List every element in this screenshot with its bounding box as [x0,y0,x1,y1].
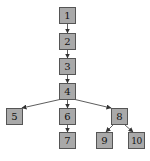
node-5: 5 [6,108,23,125]
node-10: 10 [128,132,145,149]
node-4: 4 [59,83,76,100]
node-1: 1 [59,7,76,24]
node-7: 7 [59,132,76,149]
node-2: 2 [59,33,76,50]
node-3: 3 [59,58,76,75]
edge-8-9 [106,125,113,132]
node-8: 8 [111,108,128,125]
edge-8-10 [125,125,133,132]
edge-4-8 [73,99,111,108]
tree-diagram: 1 2 3 4 5 6 7 8 9 10 [0,0,150,161]
node-6: 6 [59,108,76,125]
edge-4-5 [22,99,62,108]
node-9: 9 [96,132,113,149]
